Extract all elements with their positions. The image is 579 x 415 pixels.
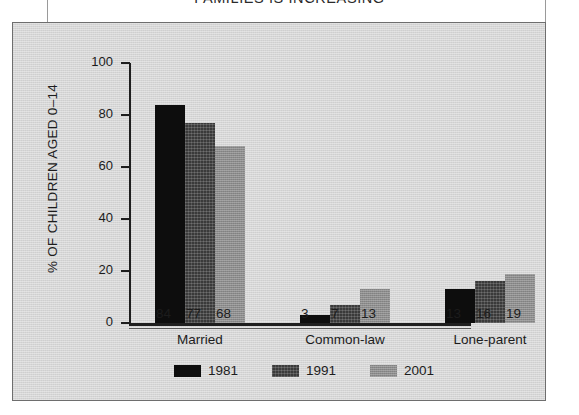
chart-screenshot: FAMILIES IS INCREASING % OF CHILDREN AGE… [0, 0, 579, 415]
category-label-common-law: Common-law [290, 332, 400, 347]
chart-panel: % OF CHILDREN AGED 0–14 020406080100 847… [12, 22, 546, 401]
y-axis-tick-label: 20 [73, 262, 113, 277]
plot-area: % OF CHILDREN AGED 0–14 020406080100 847… [13, 23, 547, 402]
legend-item-1981: 1981 [174, 363, 238, 378]
category-label-married: Married [145, 332, 255, 347]
y-axis-title: % OF CHILDREN AGED 0–14 [45, 54, 60, 304]
x-axis-line [129, 323, 471, 326]
legend-item-2001: 2001 [370, 363, 434, 378]
legend-label-2001: 2001 [404, 363, 434, 378]
legend-label-1991: 1991 [306, 363, 336, 378]
legend-label-1981: 1981 [208, 363, 238, 378]
bar-married-1991 [185, 123, 215, 323]
bar-married-2001 [215, 146, 245, 323]
y-axis-tick [121, 270, 130, 272]
y-axis-tick-label: 40 [73, 210, 113, 225]
bar-lone-parent-2001 [505, 274, 535, 323]
y-axis-tick-label: 60 [73, 158, 113, 173]
legend-swatch-1981 [174, 365, 201, 377]
legend-swatch-1991 [272, 365, 299, 377]
y-axis-tick-label: 100 [73, 54, 113, 69]
legend-item-1991: 1991 [272, 363, 336, 378]
page-title: FAMILIES IS INCREASING [0, 0, 579, 6]
y-axis-tick [121, 114, 130, 116]
bar-common-law-1991 [330, 305, 360, 323]
chart-legend: 198119912001 [129, 363, 479, 378]
chart-title-band: FAMILIES IS INCREASING [0, 0, 579, 22]
bar-married-1981 [155, 105, 185, 323]
bar-lone-parent-1981 [445, 289, 475, 323]
y-axis-tick-label: 0 [73, 314, 113, 329]
bar-lone-parent-1991 [475, 281, 505, 323]
bar-common-law-2001 [360, 289, 390, 323]
y-axis-tick [121, 62, 130, 64]
legend-swatch-2001 [370, 365, 397, 377]
y-axis-spine [129, 63, 131, 324]
x-axis-shadow-line [129, 328, 471, 329]
bar-common-law-1981 [300, 315, 330, 323]
category-label-lone-parent: Lone-parent [435, 332, 545, 347]
y-axis-tick [121, 166, 130, 168]
y-axis-tick [121, 218, 130, 220]
y-axis-tick-label: 80 [73, 106, 113, 121]
